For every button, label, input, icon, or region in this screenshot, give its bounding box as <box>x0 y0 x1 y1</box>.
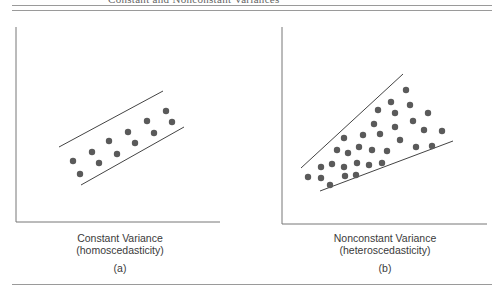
scatter-point <box>354 160 360 166</box>
scatter-point <box>96 160 102 166</box>
scatter-point <box>341 135 347 141</box>
panel-a-title-line1: Constant Variance <box>40 232 200 244</box>
panel-b-scatter-points <box>305 87 445 188</box>
scatter-point <box>410 118 416 124</box>
scatter-point <box>377 131 383 137</box>
scatter-point <box>329 161 335 167</box>
scatter-point <box>429 143 435 149</box>
scatter-point <box>439 128 445 134</box>
panel-b-title-line2: (heteroscedasticity) <box>300 244 470 256</box>
scatter-point <box>89 149 95 155</box>
scatter-point <box>151 130 157 136</box>
scatter-point <box>327 182 333 188</box>
scatter-point <box>305 174 311 180</box>
scatter-point <box>163 108 169 114</box>
scatter-point <box>77 171 83 177</box>
scatter-point <box>371 121 377 127</box>
scatter-point <box>421 127 427 133</box>
scatter-point <box>384 148 390 154</box>
scatter-point <box>70 158 76 164</box>
scatter-point <box>341 164 347 170</box>
panel-b-tag: (b) <box>300 262 470 274</box>
scatter-point <box>345 150 351 156</box>
scatter-point <box>413 144 419 150</box>
panel-a-title: Constant Variance (homoscedasticity) <box>40 232 200 256</box>
panel-a-scatter-points <box>70 108 175 177</box>
scatter-point <box>425 110 431 116</box>
band-line-lower <box>81 127 184 185</box>
scatter-point <box>360 132 366 138</box>
scatter-point <box>397 137 403 143</box>
scatter-point <box>169 119 175 125</box>
scatter-point <box>132 140 138 146</box>
scatter-point <box>353 172 359 178</box>
scatter-point <box>375 107 381 113</box>
scatter-point <box>334 147 340 153</box>
panel-a-title-line2: (homoscedasticity) <box>40 244 200 256</box>
panel-b-title: Nonconstant Variance (heteroscedasticity… <box>300 232 470 256</box>
panel-a-tag: (a) <box>40 262 200 274</box>
scatter-point <box>342 173 348 179</box>
panel-a-band-lines <box>59 91 184 185</box>
scatter-point <box>403 87 409 93</box>
panel-a-axes <box>16 27 220 222</box>
scatter-point <box>392 124 398 130</box>
scatter-point <box>144 118 150 124</box>
scatter-point <box>379 160 385 166</box>
scatter-point <box>318 164 324 170</box>
bottom-rule <box>12 284 492 285</box>
scatter-point <box>366 162 372 168</box>
scatter-point <box>392 110 398 116</box>
scatter-point <box>125 129 131 135</box>
panel-b-title-line1: Nonconstant Variance <box>300 232 470 244</box>
scatter-point <box>356 144 362 150</box>
scatter-point <box>388 99 394 105</box>
panel-b-axes <box>282 27 487 224</box>
scatter-point <box>106 138 112 144</box>
scatter-point <box>318 175 324 181</box>
scatter-point <box>407 102 413 108</box>
scatter-point <box>114 151 120 157</box>
panel-b-band-lines <box>301 74 453 191</box>
scatter-point <box>369 147 375 153</box>
